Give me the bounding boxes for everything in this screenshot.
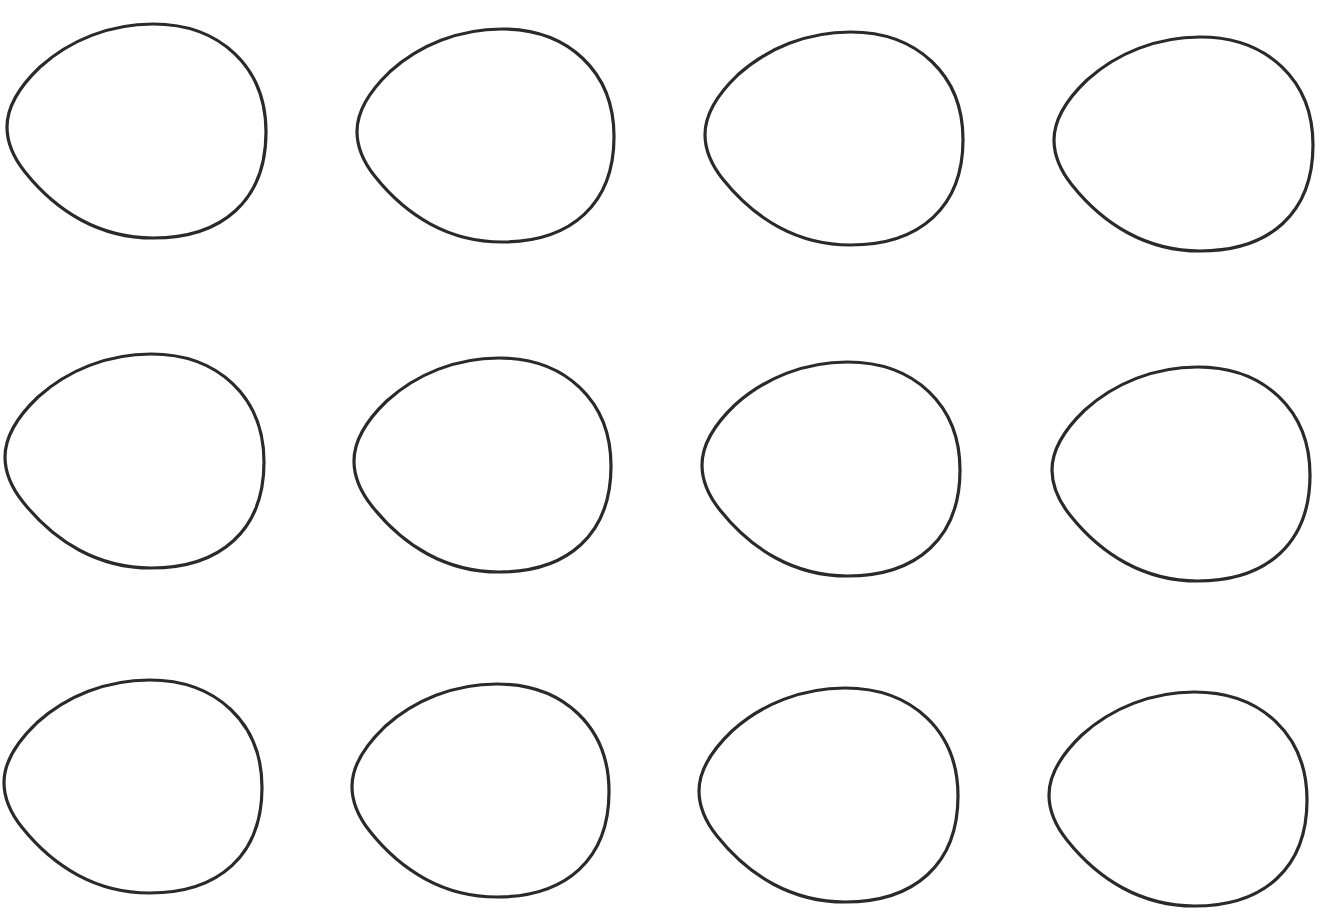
egg-outline-grid [0, 0, 1321, 913]
egg-outline-icon [697, 686, 960, 904]
egg-outline-r2-c2 [352, 356, 613, 574]
egg-outline-icon [352, 356, 613, 574]
egg-outline-r1-c3 [703, 30, 965, 247]
egg-outline-r1-c2 [355, 27, 616, 244]
egg-outline-r1-c1 [5, 22, 268, 240]
egg-outline-r2-c3 [700, 360, 962, 578]
egg-outline-icon [1050, 365, 1312, 583]
egg-outline-r2-c1 [3, 352, 266, 570]
egg-outline-r1-c4 [1052, 35, 1315, 253]
egg-outline-icon [355, 27, 616, 244]
egg-outline-r3-c2 [350, 682, 611, 899]
egg-outline-r2-c4 [1050, 365, 1312, 583]
egg-outline-r3-c4 [1047, 690, 1309, 908]
egg-outline-r3-c3 [697, 686, 960, 904]
egg-outline-icon [3, 352, 266, 570]
egg-outline-icon [703, 30, 965, 247]
egg-outline-icon [5, 22, 268, 240]
egg-outline-icon [1047, 690, 1309, 908]
egg-outline-icon [1052, 35, 1315, 253]
egg-outline-icon [2, 678, 264, 895]
egg-outline-r3-c1 [2, 678, 264, 895]
egg-outline-icon [700, 360, 962, 578]
egg-outline-icon [350, 682, 611, 899]
